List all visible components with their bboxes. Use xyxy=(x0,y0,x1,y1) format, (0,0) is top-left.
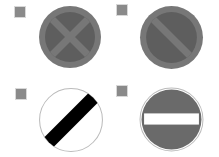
select-checkbox[interactable] xyxy=(117,5,127,15)
national-speed-limit-sign-icon[interactable] xyxy=(38,87,104,153)
sign-label: No waiting xyxy=(109,0,110,1)
select-checkbox[interactable] xyxy=(117,86,127,96)
sign-option-no-entry[interactable]: No entry xyxy=(109,78,218,156)
sign-label: Clearway (no stopping) xyxy=(0,0,1,1)
no-entry-sign-icon[interactable] xyxy=(139,87,204,152)
sign-option-national-speed-limit[interactable]: National speed limit applies xyxy=(0,78,109,156)
sign-label: No entry xyxy=(109,78,110,79)
select-checkbox[interactable] xyxy=(15,7,25,17)
select-checkbox[interactable] xyxy=(16,89,26,99)
no-waiting-sign-icon[interactable] xyxy=(139,5,204,70)
sign-option-clearway[interactable]: Clearway (no stopping) xyxy=(0,0,109,78)
sign-option-no-waiting[interactable]: No waiting xyxy=(109,0,218,78)
sign-label: National speed limit applies xyxy=(0,78,1,79)
clearway-sign-icon[interactable] xyxy=(38,5,102,69)
